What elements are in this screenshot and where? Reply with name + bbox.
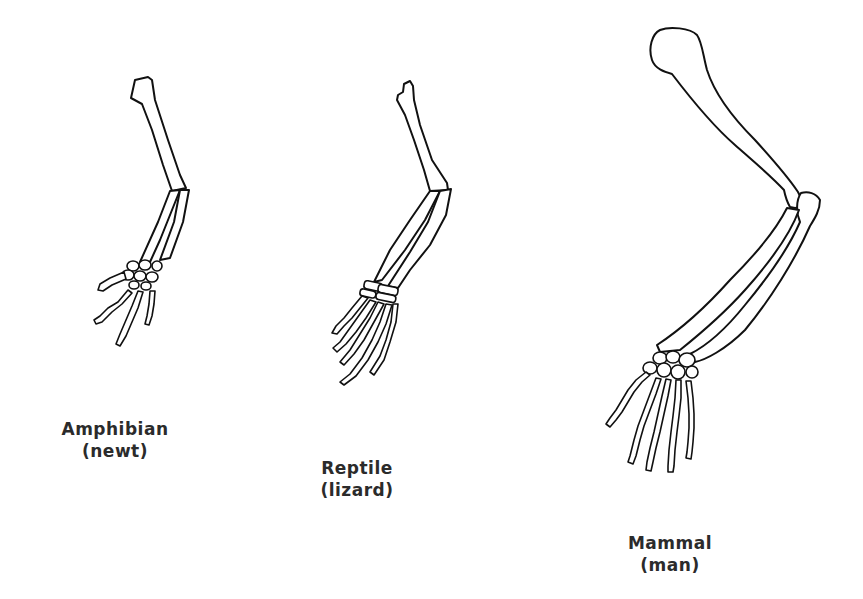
reptile-class-label: Reptile (302, 457, 412, 479)
mammal-forelimb (606, 28, 820, 472)
reptile-forelimb (332, 81, 451, 385)
mammal-humerus (650, 28, 802, 208)
mammal-label: Mammal (man) (610, 532, 730, 576)
mammal-example-label: (man) (610, 554, 730, 576)
amphibian-humerus (131, 77, 186, 191)
amphibian-forelimb (94, 77, 189, 346)
reptile-digits (332, 296, 398, 385)
amphibian-carpals (122, 260, 162, 290)
amphibian-class-label: Amphibian (40, 418, 190, 440)
reptile-humerus (397, 81, 448, 191)
forelimb-diagram (0, 0, 863, 599)
amphibian-label: Amphibian (newt) (40, 418, 190, 462)
mammal-class-label: Mammal (610, 532, 730, 554)
reptile-label: Reptile (lizard) (302, 457, 412, 501)
mammal-carpals (643, 351, 698, 379)
mammal-digits (606, 372, 694, 472)
reptile-example-label: (lizard) (302, 479, 412, 501)
amphibian-example-label: (newt) (40, 440, 190, 462)
